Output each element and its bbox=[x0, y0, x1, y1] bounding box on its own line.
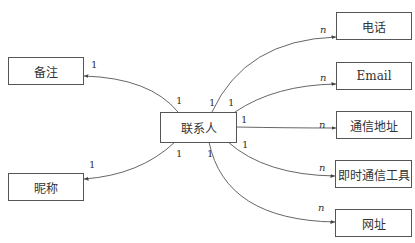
card-phone-start: 1 bbox=[209, 98, 215, 108]
card-notes-end: 1 bbox=[91, 60, 97, 70]
card-website-start: 1 bbox=[207, 149, 213, 159]
entity-contact-label: 联系人 bbox=[181, 119, 217, 136]
link-notes bbox=[84, 76, 178, 112]
entity-notes-label: 备注 bbox=[34, 63, 58, 80]
entity-nickname-label: 昵称 bbox=[34, 179, 58, 196]
card-notes-start: 1 bbox=[176, 96, 182, 106]
card-address-start: 1 bbox=[241, 115, 247, 125]
card-im-end: n bbox=[319, 163, 325, 173]
entity-contact: 联系人 bbox=[160, 112, 237, 143]
entity-im: 即时通信工具 bbox=[335, 160, 412, 188]
link-nickname bbox=[84, 142, 175, 179]
entity-website: 网址 bbox=[335, 209, 412, 237]
entity-im-label: 即时通信工具 bbox=[338, 166, 410, 183]
entity-phone: 电话 bbox=[336, 12, 412, 40]
card-email-end: n bbox=[320, 73, 326, 83]
card-address-end: n bbox=[319, 120, 325, 130]
entity-address: 通信地址 bbox=[336, 111, 412, 139]
link-email bbox=[235, 84, 336, 112]
link-website bbox=[209, 142, 335, 222]
entity-notes: 备注 bbox=[8, 57, 84, 85]
card-website-end: n bbox=[318, 203, 324, 213]
entity-nickname: 昵称 bbox=[8, 173, 84, 201]
card-nickname-start: 1 bbox=[176, 149, 182, 159]
entity-phone-label: 电话 bbox=[362, 18, 386, 35]
card-phone-end: n bbox=[320, 25, 326, 35]
entity-website-label: 网址 bbox=[362, 215, 386, 232]
card-nickname-end: 1 bbox=[89, 160, 95, 170]
entity-address-label: 通信地址 bbox=[350, 117, 398, 134]
entity-email: Email bbox=[336, 62, 412, 90]
entity-email-label: Email bbox=[357, 69, 392, 83]
card-email-start: 1 bbox=[228, 98, 234, 108]
card-im-start: 1 bbox=[242, 140, 248, 150]
